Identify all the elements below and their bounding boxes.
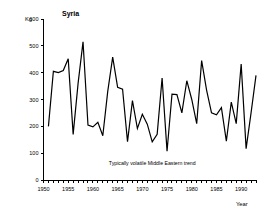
- chart-title: Syria: [62, 10, 79, 18]
- x-tick-label: 1990: [235, 186, 247, 192]
- y-tick-label: 0: [35, 177, 38, 183]
- x-tick-label: 1975: [161, 186, 173, 192]
- y-tick-label: 500: [29, 43, 38, 49]
- x-tick-label: 1985: [210, 186, 222, 192]
- y-tick-label: 400: [29, 70, 38, 76]
- x-tick-label: 1980: [186, 186, 198, 192]
- y-tick-label: 300: [29, 97, 38, 103]
- x-tick-label: 1955: [62, 186, 74, 192]
- y-tick-label: 200: [29, 123, 38, 129]
- syria-line-chart: 0100200300400500600 19501955196019651970…: [0, 0, 267, 214]
- x-tick-label: 1970: [136, 186, 148, 192]
- x-tick-label: 1965: [112, 186, 124, 192]
- y-tick-label: 100: [29, 150, 38, 156]
- y-axis-label: Kg: [25, 16, 32, 22]
- x-axis-label: Year: [236, 201, 248, 207]
- x-tick-label: 1950: [37, 186, 49, 192]
- x-tick-label: 1960: [87, 186, 99, 192]
- chart-annotation: Typically volatile Middle Eastern trend: [109, 160, 196, 166]
- chart-container: 0100200300400500600 19501955196019651970…: [0, 0, 267, 214]
